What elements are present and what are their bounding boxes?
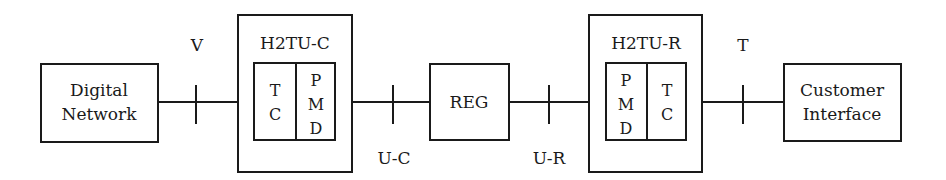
- h2tu-r-title: H2TU-R: [611, 33, 682, 53]
- reference-point-uc-label: U-C: [378, 148, 411, 168]
- reference-point-t-label: T: [737, 35, 749, 55]
- h2tu-c-block: H2TU-C T C P M D: [238, 15, 352, 172]
- customer-interface-label-line2: Interface: [803, 104, 882, 124]
- digital-network-label-line1: Digital: [70, 80, 128, 100]
- regenerator-block: REG: [430, 64, 509, 140]
- reference-point-ur-label: U-R: [533, 148, 567, 168]
- regenerator-label: REG: [450, 92, 489, 112]
- customer-interface-label-line1: Customer: [800, 80, 885, 100]
- h2tu-c-pmd-m: M: [308, 95, 324, 114]
- h2tu-r-pmd-p: P: [621, 71, 632, 90]
- h2tu-c-title: H2TU-C: [260, 33, 330, 53]
- h2tu-c-tc-t: T: [270, 81, 281, 100]
- reference-point-v-label: V: [190, 35, 204, 55]
- digital-network-label-line2: Network: [62, 104, 138, 124]
- h2tu-reference-diagram: V U-C U-R T Digital Network H2TU-C T C P…: [0, 0, 946, 180]
- customer-interface-block: Customer Interface: [784, 64, 901, 141]
- h2tu-r-tc-t: T: [662, 81, 673, 100]
- h2tu-r-pmd-m: M: [618, 95, 634, 114]
- h2tu-r-pmd-d: D: [620, 119, 633, 138]
- h2tu-c-pmd-p: P: [311, 71, 322, 90]
- h2tu-c-pmd-d: D: [310, 119, 323, 138]
- h2tu-c-tc-c: C: [269, 105, 281, 124]
- h2tu-r-tc-c: C: [661, 105, 673, 124]
- h2tu-r-block: H2TU-R P M D T C: [589, 15, 702, 172]
- digital-network-block: Digital Network: [41, 64, 158, 142]
